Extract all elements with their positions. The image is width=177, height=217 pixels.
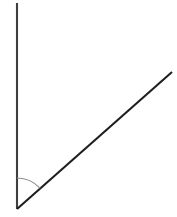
angle-diagram-figure — [0, 0, 177, 217]
figure-background — [0, 0, 177, 217]
angle-diagram-canvas — [0, 0, 177, 217]
